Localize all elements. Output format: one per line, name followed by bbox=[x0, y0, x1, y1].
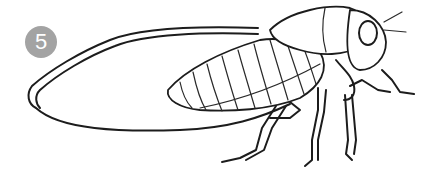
cicada-drawing bbox=[0, 0, 445, 174]
illustration-canvas: 5 bbox=[0, 0, 445, 174]
head bbox=[347, 10, 406, 70]
